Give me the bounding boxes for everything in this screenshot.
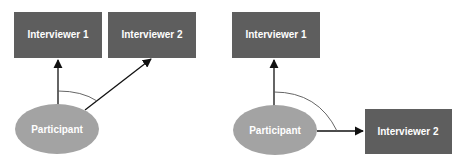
right-interviewer2-node: Interviewer 2 <box>365 109 452 154</box>
left-diagram: Interviewer 1 Interviewer 2 Participant <box>14 12 196 154</box>
right-participant-label: Participant <box>249 125 301 136</box>
left-participant-label: Participant <box>31 124 83 135</box>
right-participant-node: Participant <box>233 105 317 155</box>
right-interviewer1-label: Interviewer 1 <box>245 29 307 40</box>
left-interviewer2-node: Interviewer 2 <box>108 12 196 58</box>
diagram-canvas: Interviewer 1 Interviewer 2 Participant … <box>0 0 465 164</box>
left-edge-to-interviewer2 <box>85 59 151 110</box>
right-interviewer2-label: Interviewer 2 <box>377 126 439 137</box>
right-diagram: Interviewer 1 Interviewer 2 Participant <box>232 12 452 155</box>
left-angle-arc <box>58 91 97 101</box>
left-participant-node: Participant <box>15 104 99 154</box>
left-interviewer1-node: Interviewer 1 <box>14 12 102 58</box>
left-interviewer2-label: Interviewer 2 <box>121 29 183 40</box>
left-interviewer1-label: Interviewer 1 <box>27 29 89 40</box>
right-interviewer1-node: Interviewer 1 <box>232 12 320 58</box>
